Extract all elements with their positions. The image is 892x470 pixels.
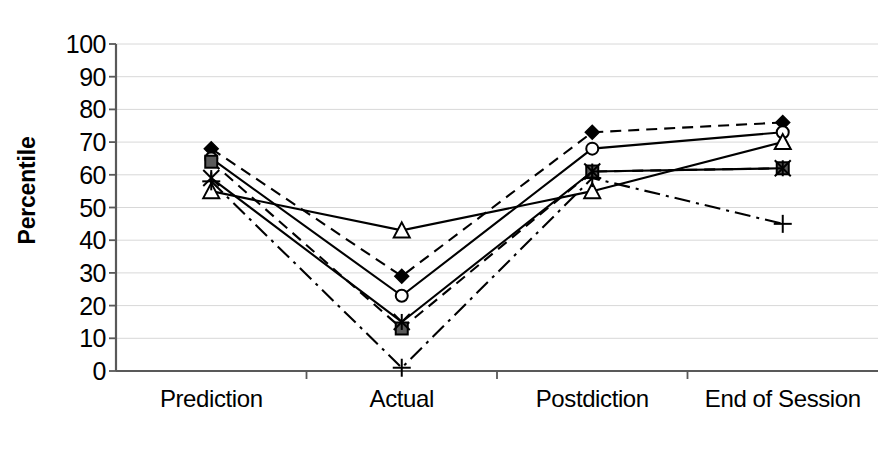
series-line <box>211 142 783 230</box>
marker-circle <box>396 290 408 302</box>
marker-circle <box>586 143 598 155</box>
marker-square <box>205 156 217 168</box>
x-axis-tick-labels: PredictionActualPostdictionEnd of Sessio… <box>116 385 878 425</box>
y-tick-label: 20 <box>79 291 106 320</box>
y-tick-label: 10 <box>79 324 106 353</box>
series-line <box>211 162 783 329</box>
x-tick-label: Actual <box>370 385 434 413</box>
series-square <box>205 156 789 335</box>
y-tick-label: 80 <box>79 95 106 124</box>
plot-svg <box>116 44 878 371</box>
series-line <box>211 122 783 276</box>
series-line <box>211 168 783 322</box>
y-tick-label: 0 <box>93 357 106 386</box>
series-diamond <box>204 115 790 283</box>
y-tick-label: 100 <box>66 30 106 59</box>
y-axis-title: Percentile <box>0 0 56 380</box>
series-star <box>203 160 791 330</box>
marker-diamond <box>585 125 599 139</box>
y-tick-label: 50 <box>79 193 106 222</box>
x-tick-label: Prediction <box>160 385 263 413</box>
x-tick-label: Postdiction <box>536 385 649 413</box>
chart-figure: Percentile 0102030405060708090100 Predic… <box>0 0 892 470</box>
y-tick-label: 30 <box>79 258 106 287</box>
series-circle <box>205 126 789 301</box>
y-tick-label: 70 <box>79 128 106 157</box>
y-tick-label: 90 <box>79 62 106 91</box>
x-tick-label: End of Session <box>705 385 861 413</box>
y-axis-title-text: Percentile <box>15 136 42 244</box>
series-line <box>211 132 783 296</box>
y-axis-tick-labels: 0102030405060708090100 <box>52 30 112 385</box>
y-tick-label: 40 <box>79 226 106 255</box>
y-tick-label: 60 <box>79 160 106 189</box>
data-series-layer <box>202 115 792 376</box>
plot-area <box>116 44 878 371</box>
